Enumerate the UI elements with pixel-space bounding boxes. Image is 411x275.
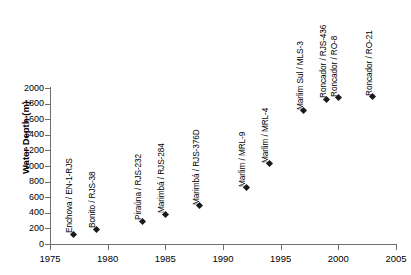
y-tick bbox=[45, 150, 50, 151]
x-tick-label: 1995 bbox=[258, 253, 304, 264]
data-point-label: Roncador / RJS-436 bbox=[319, 25, 328, 98]
y-axis-line bbox=[50, 87, 51, 245]
y-tick bbox=[45, 213, 50, 214]
x-tick bbox=[50, 245, 51, 250]
x-tick-label: 2000 bbox=[315, 253, 361, 264]
x-tick bbox=[338, 245, 339, 250]
y-tick bbox=[45, 182, 50, 183]
data-point-label: Roncador / RO-21 bbox=[365, 30, 374, 96]
data-point-label: Marlim Sul / MLS-3 bbox=[296, 41, 305, 110]
y-tick-label: 0 bbox=[4, 240, 44, 249]
y-tick-label: 400 bbox=[4, 208, 44, 217]
x-tick-label: 1975 bbox=[27, 253, 73, 264]
x-tick-label: 1990 bbox=[200, 253, 246, 264]
y-tick-label: 1000 bbox=[4, 162, 44, 171]
x-tick bbox=[165, 245, 166, 250]
data-point-label: Enchova / EN-1-RJS bbox=[65, 159, 74, 234]
y-tick-label: 2000 bbox=[4, 84, 44, 93]
x-tick-label: 1980 bbox=[85, 253, 131, 264]
data-point-label: Marimbá / RJS-284 bbox=[157, 143, 166, 213]
y-tick-label: 200 bbox=[4, 224, 44, 233]
x-tick-label: 2005 bbox=[373, 253, 411, 264]
y-tick bbox=[45, 228, 50, 229]
y-tick bbox=[45, 119, 50, 120]
y-tick-label: 800 bbox=[4, 177, 44, 186]
y-tick bbox=[45, 135, 50, 136]
data-point-label: Bonito / RJS-38 bbox=[88, 172, 97, 229]
x-tick bbox=[223, 245, 224, 250]
data-point-label: Marimbá / RJS-376D bbox=[192, 129, 201, 205]
data-point-label: Roncador / RO-8 bbox=[330, 35, 339, 96]
x-tick-label: 1985 bbox=[142, 253, 188, 264]
y-tick-label: 600 bbox=[4, 193, 44, 202]
x-tick bbox=[108, 245, 109, 250]
y-tick bbox=[45, 197, 50, 198]
y-tick-label: 1600 bbox=[4, 115, 44, 124]
y-tick-label: 1800 bbox=[4, 99, 44, 108]
data-point-label: Marlim / MRL-4 bbox=[261, 108, 270, 163]
x-tick bbox=[281, 245, 282, 250]
y-tick bbox=[45, 166, 50, 167]
y-tick-label: 1400 bbox=[4, 130, 44, 139]
y-tick-label: 1200 bbox=[4, 146, 44, 155]
data-point-label: Piraúna / RJS-232 bbox=[134, 154, 143, 220]
y-tick bbox=[45, 104, 50, 105]
y-tick bbox=[45, 88, 50, 89]
x-tick bbox=[396, 245, 397, 250]
data-point-label: Marlim / MRL-9 bbox=[238, 131, 247, 186]
